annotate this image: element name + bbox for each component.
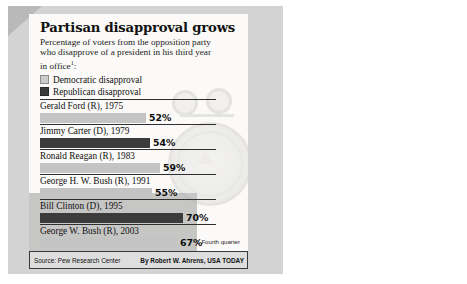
- bar-row: Bill Clinton (D), 1995 70%: [40, 199, 239, 223]
- bar-row: George H. W. Bush (R), 1991 55%: [40, 174, 239, 198]
- bar-value: 55%: [155, 187, 177, 198]
- bar-row: Jimmy Carter (D), 1979 54%: [40, 124, 239, 148]
- legend-swatch-democratic-icon: [40, 75, 49, 84]
- bar-row: Gerald Ford (R), 1975 52%: [40, 99, 239, 123]
- bar-fill: [40, 238, 177, 248]
- infographic-root: Partisan disapproval grows Percentage of…: [0, 0, 467, 284]
- bar-fill: [40, 213, 183, 223]
- source-label: Source: Pew Research Center: [30, 257, 120, 264]
- bar-value: 52%: [149, 112, 171, 123]
- legend-item-republican: Republican disapproval: [40, 86, 239, 97]
- bar-track: 67% 1Fourth quarter: [40, 237, 239, 248]
- bar-row: George W. Bush (R), 2003 67% 1Fourth qua…: [40, 224, 239, 248]
- footnote-text: Fourth quarter: [201, 238, 240, 245]
- chart-footnote: 1Fourth quarter: [196, 238, 242, 245]
- bar-track: 54%: [40, 137, 239, 148]
- bar-track: 70%: [40, 212, 239, 223]
- bar-chart-body: Gerald Ford (R), 1975 52% Jimmy Carter (…: [40, 99, 239, 248]
- chart-panel: Partisan disapproval grows Percentage of…: [29, 14, 248, 251]
- bar-label: Bill Clinton (D), 1995: [40, 200, 239, 212]
- bar-value: 70%: [186, 212, 208, 223]
- bar-label: George W. Bush (R), 2003: [40, 225, 239, 237]
- footnote-mark: 1: [196, 238, 199, 245]
- bar-fill: [40, 188, 152, 198]
- legend-item-democratic: Democratic disapproval: [40, 74, 239, 85]
- bar-track: 55%: [40, 187, 239, 198]
- bar-label: Gerald Ford (R), 1975: [40, 100, 239, 112]
- bar-label: George H. W. Bush (R), 1991: [40, 175, 239, 187]
- bar-label: Ronald Reagan (R), 1983: [40, 150, 239, 162]
- source-strip: Source: Pew Research Center By Robert W.…: [29, 251, 248, 269]
- bar-value: 59%: [163, 162, 185, 173]
- legend-swatch-republican-icon: [40, 87, 49, 96]
- byline-label: By Robert W. Ahrens, USA TODAY: [140, 257, 244, 264]
- bar-value: 54%: [153, 137, 175, 148]
- bar-fill: [40, 163, 160, 173]
- subtitle-line-1: Percentage of voters from the opposition: [40, 37, 190, 47]
- legend-label-democratic: Democratic disapproval: [53, 75, 142, 85]
- bar-track: 52%: [40, 112, 239, 123]
- chart-legend: Democratic disapproval Republican disapp…: [40, 74, 239, 97]
- bar-row: Ronald Reagan (R), 1983 59%: [40, 149, 239, 173]
- bar-fill: [40, 138, 150, 148]
- subtitle-colon: :: [74, 61, 77, 71]
- chart-subtitle: Percentage of voters from the opposition…: [40, 37, 216, 71]
- bar-fill: [40, 113, 146, 123]
- chart-title: Partisan disapproval grows: [40, 20, 239, 35]
- bar-track: 59%: [40, 162, 239, 173]
- bar-label: Jimmy Carter (D), 1979: [40, 125, 239, 137]
- legend-label-republican: Republican disapproval: [53, 87, 141, 97]
